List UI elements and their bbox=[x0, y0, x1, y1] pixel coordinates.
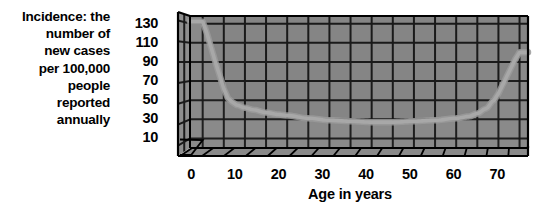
incidence-by-age-chart: Incidence: the number of new cases per 1… bbox=[0, 0, 558, 206]
plot-area bbox=[0, 0, 558, 206]
